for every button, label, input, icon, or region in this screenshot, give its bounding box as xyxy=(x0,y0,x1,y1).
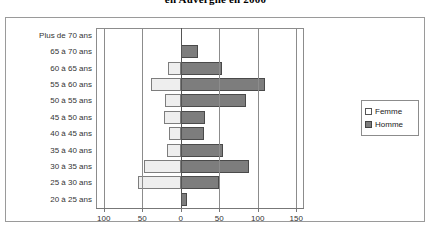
y-axis-label: 35 à 40 ans xyxy=(50,143,92,159)
bar-femme xyxy=(151,78,180,91)
bar-row xyxy=(96,93,304,109)
x-axis-tick-label: 150 xyxy=(276,214,316,223)
legend-label-homme: Homme xyxy=(375,120,403,129)
gridline xyxy=(296,28,297,208)
legend-swatch-homme-icon xyxy=(365,121,372,128)
y-axis-label: 65 à 70 ans xyxy=(50,44,92,60)
bar-homme xyxy=(181,45,198,58)
bar-rows xyxy=(96,28,304,208)
bar-row xyxy=(96,175,304,191)
y-axis-label: Plus de 70 ans xyxy=(39,28,92,44)
bar-femme xyxy=(168,62,180,75)
bar-femme xyxy=(169,127,181,140)
gridline xyxy=(258,28,259,208)
gridline xyxy=(104,28,105,208)
gridline xyxy=(219,28,220,208)
bar-row xyxy=(96,61,304,77)
zero-axis-line xyxy=(181,28,182,208)
x-axis-tick-label: 100 xyxy=(238,214,278,223)
bar-row xyxy=(96,143,304,159)
bar-femme xyxy=(164,111,181,124)
bar-row xyxy=(96,77,304,93)
bar-homme xyxy=(181,78,266,91)
bar-femme xyxy=(144,160,181,173)
x-axis-tick xyxy=(142,208,143,212)
bar-homme xyxy=(181,62,223,75)
x-axis-tick xyxy=(219,208,220,212)
x-axis-tick xyxy=(181,208,182,212)
legend-swatch-femme-icon xyxy=(365,108,372,115)
y-axis-label: 60 à 65 ans xyxy=(50,61,92,77)
y-axis-label: 55 à 60 ans xyxy=(50,77,92,93)
chart-screenshot: en Auvergne en 2000 Plus de 70 ans65 à 7… xyxy=(0,0,431,244)
bar-row xyxy=(96,44,304,60)
bar-homme xyxy=(181,160,249,173)
bar-homme xyxy=(181,127,204,140)
legend-item-homme: Homme xyxy=(365,118,415,131)
x-axis-tick-label: 0 xyxy=(161,214,201,223)
x-axis-tick-label: 50 xyxy=(122,214,162,223)
gridline xyxy=(142,28,143,208)
bar-row xyxy=(96,28,304,44)
bar-homme xyxy=(181,111,206,124)
bar-homme xyxy=(181,94,246,107)
bar-row xyxy=(96,192,304,208)
chart-legend: Femme Homme xyxy=(361,100,419,136)
y-axis-label: 25 à 30 ans xyxy=(50,175,92,191)
y-axis-labels: Plus de 70 ans65 à 70 ans60 à 65 ans55 à… xyxy=(6,28,92,208)
bar-femme xyxy=(165,94,180,107)
bar-homme xyxy=(181,176,220,189)
x-axis-tick xyxy=(258,208,259,212)
bar-femme xyxy=(167,144,181,157)
plot-area xyxy=(96,28,304,208)
x-axis-line xyxy=(96,208,304,209)
y-axis-label: 45 à 50 ans xyxy=(50,110,92,126)
legend-item-femme: Femme xyxy=(365,105,415,118)
bar-row xyxy=(96,110,304,126)
bar-homme xyxy=(181,144,223,157)
y-axis-label: 40 à 45 ans xyxy=(50,126,92,142)
y-axis-label: 30 à 35 ans xyxy=(50,159,92,175)
legend-label-femme: Femme xyxy=(375,107,402,116)
x-axis-tick xyxy=(104,208,105,212)
y-axis-label: 50 à 55 ans xyxy=(50,93,92,109)
x-axis-tick-label: 50 xyxy=(199,214,239,223)
x-axis-tick-label: 100 xyxy=(84,214,124,223)
x-axis-tick xyxy=(296,208,297,212)
bar-row xyxy=(96,126,304,142)
chart-title: en Auvergne en 2000 xyxy=(0,0,431,5)
y-axis-label: 20 à 25 ans xyxy=(50,192,92,208)
bar-row xyxy=(96,159,304,175)
bar-femme xyxy=(138,176,180,189)
